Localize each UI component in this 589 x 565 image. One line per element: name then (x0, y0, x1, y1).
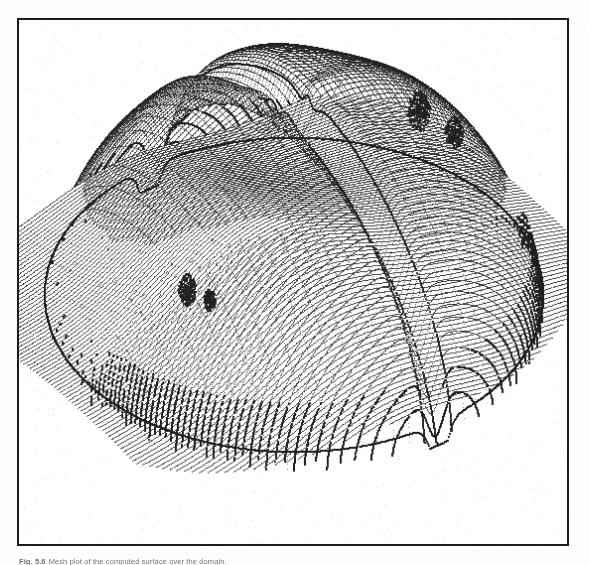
caption-label: Fig. 5.6 (19, 557, 46, 565)
figure-frame (17, 18, 569, 546)
caption-text: Mesh plot of the computed surface over t… (49, 557, 227, 565)
figure-caption: Fig. 5.6Mesh plot of the computed surfac… (19, 557, 449, 565)
surface-plot-canvas (19, 20, 567, 544)
scanned-page: Fig. 5.6Mesh plot of the computed surfac… (0, 0, 589, 565)
